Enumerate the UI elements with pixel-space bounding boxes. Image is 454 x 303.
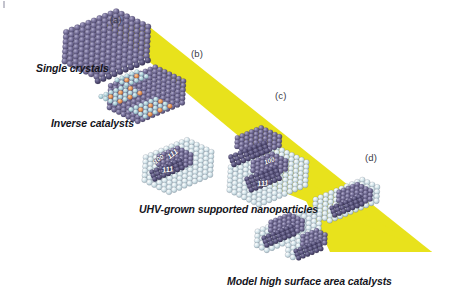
figure-canvas: 100111111100111 (a) (b) (c) (d) Single c…	[0, 0, 454, 303]
caption-model-high-surface-area: Model high surface area catalysts	[227, 275, 392, 287]
diagram-graphics: 100111111100111	[0, 0, 454, 303]
caption-uhv-nanoparticles: UHV-grown supported nanoparticles	[139, 203, 318, 215]
caption-inverse-catalysts: Inverse catalysts	[51, 117, 134, 129]
panel-label-b: (b)	[191, 48, 203, 59]
facet-label: 111	[257, 178, 269, 188]
panel-label-d: (d)	[365, 152, 377, 163]
panel-label-c: (c)	[275, 90, 287, 101]
panel-label-a: (a)	[110, 14, 122, 25]
facet-label: 111	[161, 164, 174, 174]
caption-single-crystals: Single crystals	[36, 62, 109, 74]
